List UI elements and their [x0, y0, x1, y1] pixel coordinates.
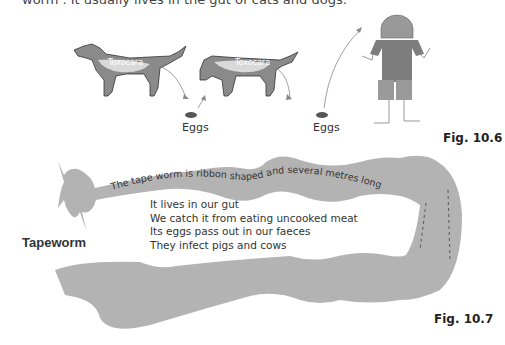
tapeworm-facts: It lives in our gut We catch it from eat… — [150, 198, 358, 252]
dog-1-icon — [74, 44, 189, 99]
fig-10-7-label: Fig. 10.7 — [434, 312, 493, 326]
eggs-2-icon — [316, 112, 328, 118]
tapeworm-title: Tapeworm — [22, 235, 86, 250]
toxocara-label-2: Toxocara — [235, 58, 270, 67]
fact-item: It lives in our gut — [150, 198, 358, 212]
eggs-label-2: Eggs — [313, 121, 340, 134]
fact-item: They infect pigs and cows — [150, 239, 358, 253]
person-icon — [362, 15, 430, 123]
toxocara-label-1: Toxocara — [108, 58, 143, 67]
eggs-1-icon — [185, 112, 197, 118]
fact-item: Its eggs pass out in our faeces — [150, 225, 358, 239]
illustrations: The tape worm is ribbon shaped and sever… — [0, 0, 505, 345]
eggs-label-1: Eggs — [182, 121, 209, 134]
fact-item: We catch it from eating uncooked meat — [150, 212, 358, 226]
fig-10-6-label: Fig. 10.6 — [443, 131, 502, 145]
